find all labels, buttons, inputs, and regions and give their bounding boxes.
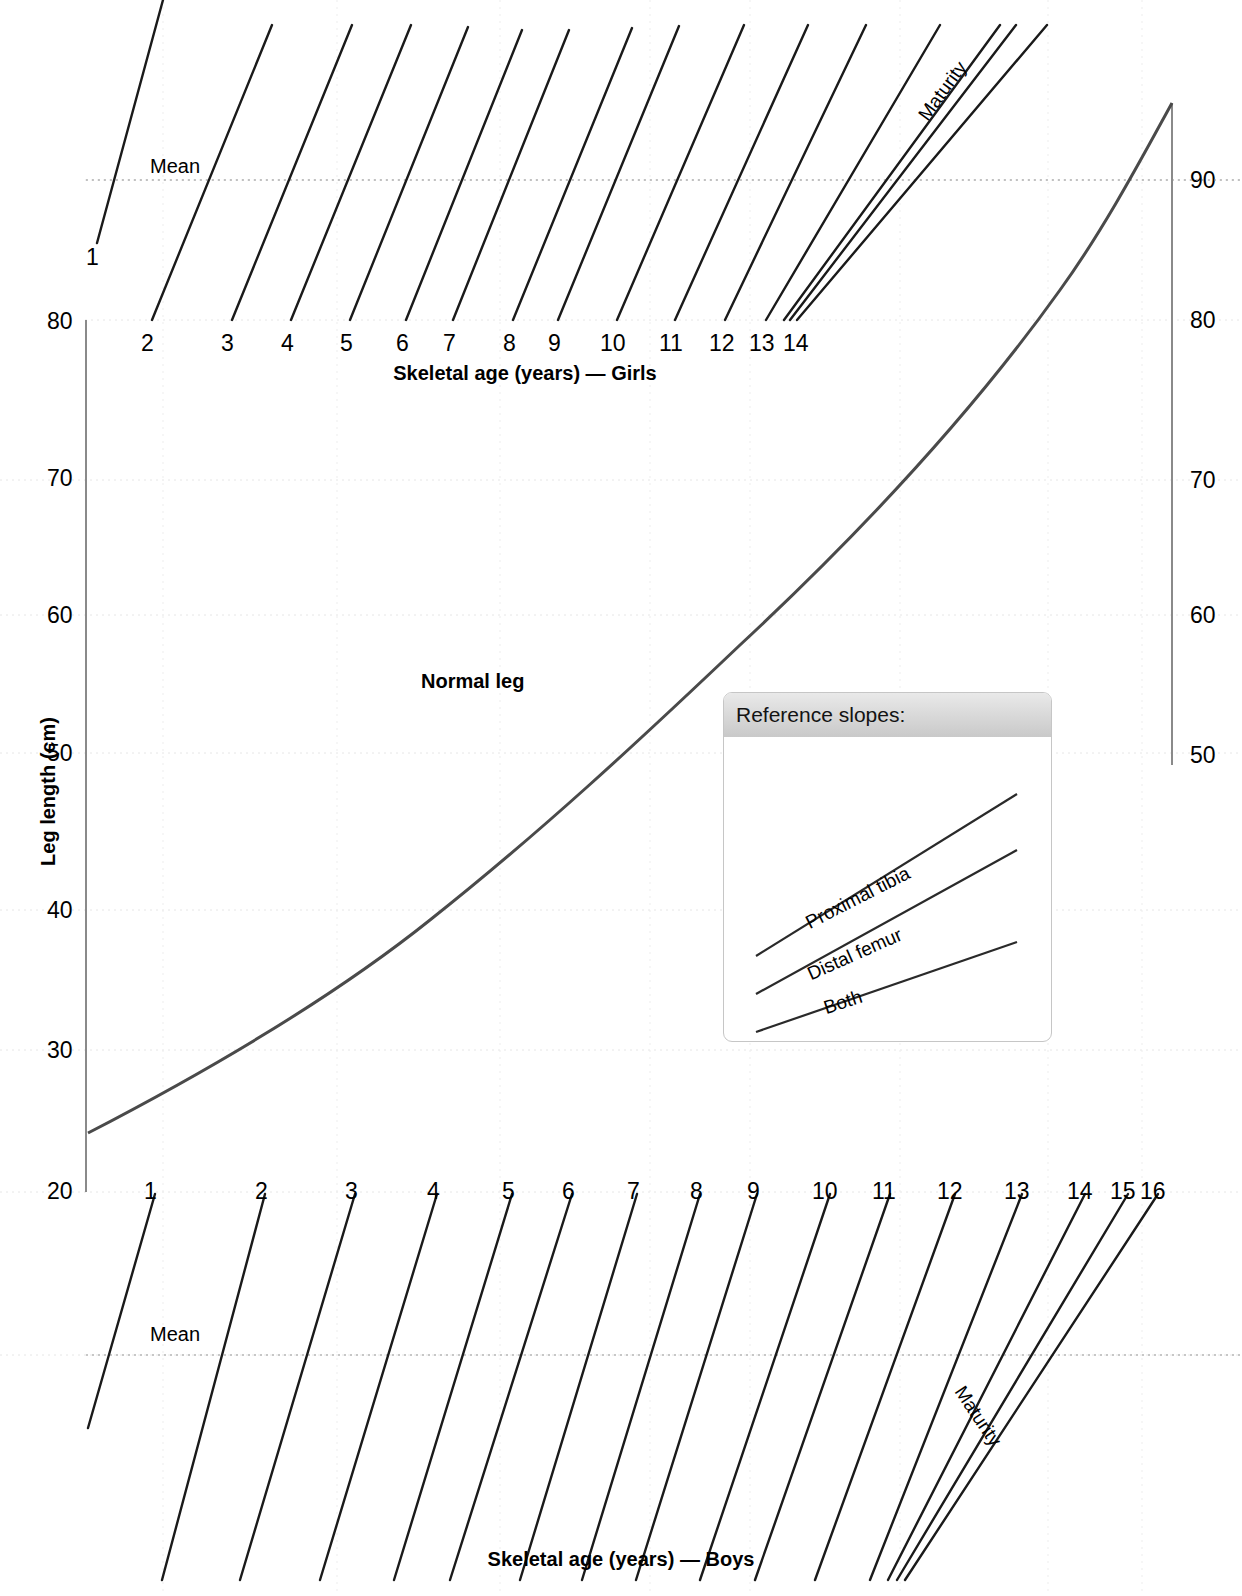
normal-leg-label: Normal leg <box>421 670 524 693</box>
boys-age-label-5: 5 <box>502 1178 515 1205</box>
boys-age-label-12: 12 <box>937 1178 963 1205</box>
inset-header: Reference slopes: <box>724 693 1051 737</box>
boys-line-15 <box>897 1194 1128 1580</box>
boys-line-11 <box>755 1194 890 1580</box>
boys-line-13 <box>870 1194 1022 1580</box>
boys-axis-title: Skeletal age (years) — Boys <box>0 1548 1242 1571</box>
boys-age-label-10: 10 <box>812 1178 838 1205</box>
boys-line-1 <box>88 1194 155 1428</box>
boys-line-2 <box>162 1194 265 1580</box>
boys-age-label-13: 13 <box>1004 1178 1030 1205</box>
boys-age-label-6: 6 <box>562 1178 575 1205</box>
chart-canvas: 80 70 60 50 40 30 20 90 80 70 60 50 Leg … <box>0 0 1242 1596</box>
boys-age-label-3: 3 <box>345 1178 358 1205</box>
boys-mean-label: Mean <box>150 1323 200 1346</box>
boys-line-16 <box>905 1194 1158 1580</box>
boys-line-8 <box>582 1194 700 1580</box>
boys-line-10 <box>700 1194 830 1580</box>
boys-age-label-11: 11 <box>872 1178 896 1205</box>
boys-line-5 <box>394 1194 512 1580</box>
boys-age-label-4: 4 <box>427 1178 440 1205</box>
inset-title: Reference slopes: <box>736 703 905 727</box>
boys-age-label-7: 7 <box>627 1178 640 1205</box>
boys-line-14 <box>888 1194 1085 1580</box>
boys-age-label-2: 2 <box>255 1178 268 1205</box>
boys-nomogram <box>0 1180 1242 1596</box>
boys-line-7 <box>520 1194 637 1580</box>
boys-age-label-9: 9 <box>747 1178 760 1205</box>
boys-age-label-14: 14 <box>1067 1178 1093 1205</box>
boys-line-9 <box>636 1194 757 1580</box>
both-slope <box>756 942 1017 1032</box>
reference-slopes-inset: Reference slopes: Proximal tibia Distal … <box>723 692 1052 1042</box>
boys-line-12 <box>815 1194 955 1580</box>
boys-age-label-1: 1 <box>144 1178 157 1205</box>
boys-age-label-16: 16 <box>1140 1178 1166 1205</box>
boys-age-label-15: 15 <box>1110 1178 1136 1205</box>
boys-age-label-8: 8 <box>690 1178 703 1205</box>
boys-line-6 <box>450 1194 572 1580</box>
